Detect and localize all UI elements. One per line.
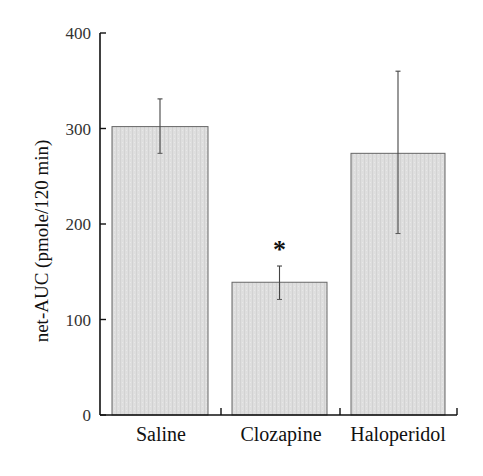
bar-chart: Saline*ClozapineHaloperidol 010020030040…: [0, 0, 483, 476]
x-category-label: Haloperidol: [350, 423, 446, 446]
bar-saline: Saline: [112, 99, 208, 445]
y-tick-label: 300: [66, 120, 92, 139]
significance-asterisk: *: [273, 235, 286, 264]
y-tick-label: 0: [83, 406, 92, 425]
y-axis-title: net-AUC (pmole/120 min): [31, 140, 53, 343]
bar-rect: [112, 127, 208, 415]
bars-layer: Saline*ClozapineHaloperidol: [112, 71, 446, 446]
y-tick-label: 100: [66, 311, 92, 330]
y-tick-label: 200: [66, 215, 92, 234]
bar-haloperidol: Haloperidol: [350, 71, 446, 446]
x-category-label: Saline: [136, 423, 186, 445]
bar-rect: [232, 282, 327, 415]
y-tick-label: 400: [66, 24, 92, 43]
x-category-label: Clozapine: [240, 423, 321, 446]
